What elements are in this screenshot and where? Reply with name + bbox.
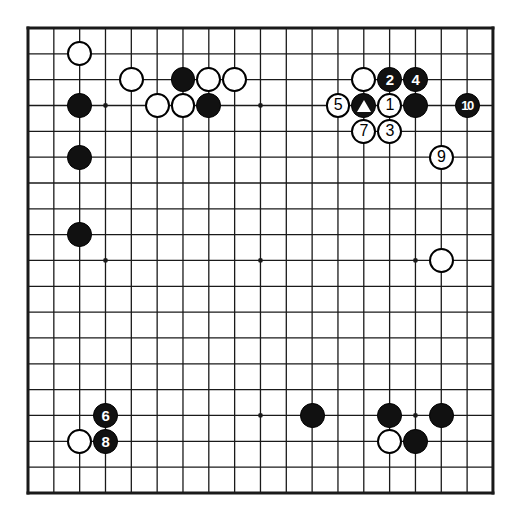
star-point: [258, 103, 263, 108]
black-stone[interactable]: [67, 93, 92, 118]
star-point: [258, 258, 263, 263]
black-stone[interactable]: [196, 93, 221, 118]
star-point: [413, 413, 418, 418]
white-stone[interactable]: [145, 93, 170, 118]
move-stone-8[interactable]: 8: [93, 429, 118, 454]
star-point: [103, 103, 108, 108]
black-stone[interactable]: [403, 93, 428, 118]
go-diagram: 24511073968: [0, 0, 505, 525]
move-number-label: 8: [102, 434, 110, 449]
white-stone[interactable]: [429, 248, 454, 273]
star-point: [258, 413, 263, 418]
marked-stone-black[interactable]: [351, 93, 376, 118]
move-stone-5[interactable]: 5: [326, 93, 351, 118]
move-number-label: 3: [385, 123, 393, 139]
black-stone[interactable]: [67, 222, 92, 247]
black-stone[interactable]: [300, 403, 325, 428]
move-number-label: 2: [386, 72, 394, 87]
move-number-label: 1: [385, 97, 393, 113]
black-stone[interactable]: [429, 403, 454, 428]
move-number-label: 4: [412, 72, 420, 87]
white-stone[interactable]: [67, 429, 92, 454]
move-stone-9[interactable]: 9: [429, 145, 454, 170]
move-stone-7[interactable]: 7: [351, 119, 376, 144]
star-point: [413, 258, 418, 263]
black-stone[interactable]: [67, 145, 92, 170]
white-stone[interactable]: [119, 67, 144, 92]
move-number-label: 9: [437, 149, 445, 165]
move-number-label: 6: [102, 408, 110, 423]
move-number-label: 7: [360, 123, 368, 139]
move-stone-1[interactable]: 1: [377, 93, 402, 118]
move-number-label: 5: [334, 97, 342, 113]
white-stone[interactable]: [222, 67, 247, 92]
black-stone[interactable]: [171, 67, 196, 92]
black-stone[interactable]: [403, 429, 428, 454]
star-point: [103, 258, 108, 263]
white-stone[interactable]: [171, 93, 196, 118]
move-number-label: 10: [461, 99, 472, 112]
move-stone-4[interactable]: 4: [403, 67, 428, 92]
move-stone-6[interactable]: 6: [93, 403, 118, 428]
triangle-marker-icon: [357, 100, 371, 112]
move-stone-2[interactable]: 2: [377, 67, 402, 92]
move-stone-3[interactable]: 3: [377, 119, 402, 144]
white-stone[interactable]: [377, 429, 402, 454]
move-stone-10[interactable]: 10: [455, 93, 480, 118]
black-stone[interactable]: [377, 403, 402, 428]
